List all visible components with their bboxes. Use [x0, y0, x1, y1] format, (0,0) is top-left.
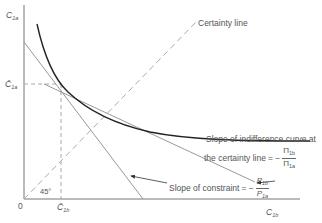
c1a-bar-label: C̄1a	[5, 80, 17, 91]
indifference-slope-label-line2: the certainty line = − Π1b Π1a	[204, 146, 296, 171]
c1b-bar-sub: 1b	[63, 207, 69, 213]
constraint-den-sub: 1a	[262, 193, 268, 199]
y-axis-label: C1a	[6, 11, 18, 22]
constraint-slope-eq: = −	[241, 184, 253, 193]
constraint-num-sub: 1b	[262, 180, 268, 186]
x-axis-label-sub: 1b	[272, 212, 278, 218]
c1a-bar-sub: 1a	[11, 84, 17, 90]
constraint-line	[24, 42, 143, 199]
origin-label: 0	[18, 202, 23, 211]
certainty-line	[24, 22, 196, 199]
constraint-slope-label: Slope of constraint = − P1b P1a	[169, 176, 269, 201]
c1b-bar-label: C̄1b	[57, 203, 69, 214]
indifference-slope-label-line1: Slope of indifference curve at	[206, 135, 316, 144]
angle-label: 45°	[40, 188, 51, 196]
y-axis-label-sub: 1a	[12, 15, 18, 21]
indifference-slope-text: the certainty line	[204, 154, 266, 163]
indifference-num-sub: 1b	[289, 150, 295, 156]
constraint-slope-fraction: P1b P1a	[256, 176, 269, 201]
x-axis-label: C1b	[266, 208, 278, 219]
indifference-den-sub: 1a	[289, 163, 295, 169]
certainty-line-label: Certainty line	[198, 19, 248, 28]
indifference-slope-fraction: Π1b Π1a	[282, 146, 296, 171]
constraint-slope-text: Slope of constraint	[169, 184, 239, 193]
indifference-curve	[37, 24, 310, 141]
constraint-arrow	[131, 176, 167, 183]
indifference-slope-eq: = −	[268, 154, 280, 163]
